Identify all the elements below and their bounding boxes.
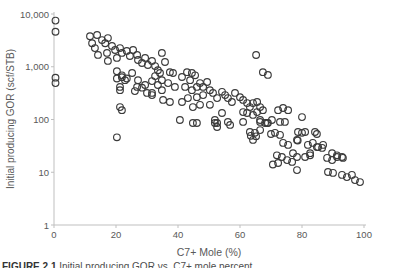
data-point	[214, 95, 221, 102]
y-tick-label: 100	[33, 114, 49, 125]
data-point	[182, 84, 189, 91]
figure-caption-number: FIGURE 2.1	[2, 261, 56, 268]
x-tick-label: 100	[356, 229, 372, 240]
data-point	[159, 50, 166, 57]
data-point	[282, 119, 289, 126]
x-tick-label: 20	[111, 229, 122, 240]
y-tick-label: 1	[44, 220, 49, 231]
data-point	[52, 28, 59, 35]
data-point	[135, 77, 142, 84]
data-point	[167, 99, 174, 106]
data-point	[299, 114, 306, 121]
data-point	[290, 150, 297, 157]
x-tick-label: 40	[173, 229, 184, 240]
y-tick-label: 10,000	[20, 9, 49, 20]
data-point	[214, 124, 221, 131]
data-point	[229, 99, 236, 106]
data-point	[240, 119, 247, 126]
x-tick-label: 60	[235, 229, 246, 240]
data-point	[152, 73, 159, 80]
data-point	[190, 120, 197, 127]
data-point	[87, 33, 94, 40]
y-axis-title: Initial producing GOR (scf/STB)	[5, 49, 16, 189]
plot-svg: 10,0001,000100101020406080100	[0, 0, 398, 268]
data-point	[114, 134, 121, 141]
data-point	[204, 79, 211, 86]
data-point	[194, 94, 201, 101]
figure-caption: FIGURE 2.1 Initial producing GOR vs. C7+…	[2, 261, 398, 268]
data-point	[104, 50, 111, 57]
gor-scatter-chart: 10,0001,000100101020406080100 Initial pr…	[0, 0, 398, 268]
x-tick-label: 80	[297, 229, 308, 240]
y-tick-label: 10	[38, 167, 49, 178]
data-point	[159, 87, 166, 94]
data-point	[142, 55, 149, 62]
figure: 10,0001,000100101020406080100 Initial pr…	[0, 0, 398, 268]
x-axis-title: C7+ Mole (%)	[177, 246, 241, 258]
data-point	[219, 110, 226, 117]
figure-caption-text: Initial producing GOR vs. C7+ mole perce…	[56, 261, 252, 268]
data-point	[179, 99, 186, 106]
data-point	[172, 84, 179, 91]
x-tick-label: 0	[51, 229, 56, 240]
data-point	[207, 101, 214, 108]
data-point	[177, 117, 184, 124]
data-point	[129, 70, 136, 77]
data-point	[165, 80, 172, 87]
data-point	[95, 52, 102, 59]
data-point	[52, 17, 59, 24]
data-point	[190, 104, 197, 111]
y-tick-label: 1,000	[25, 61, 49, 72]
data-point	[314, 131, 321, 138]
data-point	[294, 167, 301, 174]
data-point	[105, 58, 112, 65]
data-point	[312, 129, 319, 136]
data-point	[197, 101, 204, 108]
data-point	[145, 62, 152, 69]
data-point	[257, 127, 264, 134]
data-point	[162, 59, 169, 66]
data-point	[253, 52, 260, 59]
data-point	[160, 97, 167, 104]
